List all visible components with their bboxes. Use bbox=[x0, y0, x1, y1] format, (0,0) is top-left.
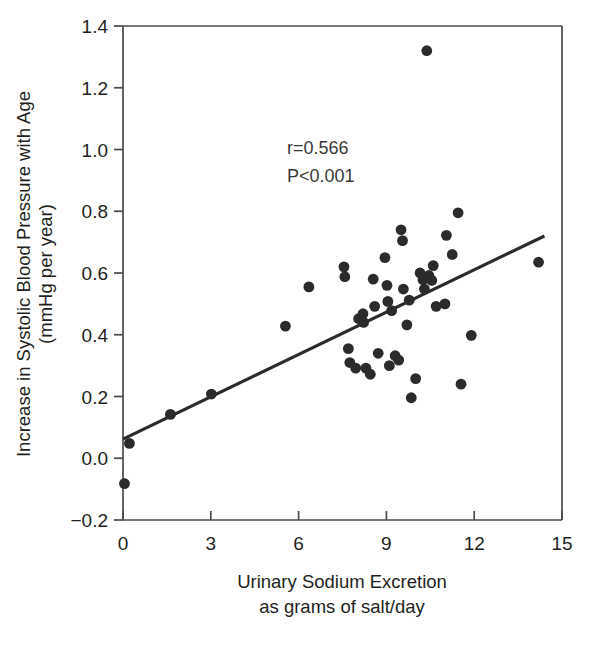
data-point bbox=[280, 321, 291, 332]
data-point bbox=[343, 343, 354, 354]
x-tick-label: 0 bbox=[118, 533, 129, 554]
x-tick-label: 15 bbox=[551, 533, 572, 554]
data-point bbox=[358, 317, 369, 328]
x-axis-title-line2: as grams of salt/day bbox=[259, 596, 425, 617]
data-point bbox=[453, 207, 464, 218]
statistic-annotation: P<0.001 bbox=[287, 166, 355, 186]
data-point bbox=[397, 235, 408, 246]
x-axis-title-line1: Urinary Sodium Excretion bbox=[237, 571, 447, 592]
x-tick-label: 9 bbox=[381, 533, 392, 554]
y-axis-title-line2: (mmHg per year) bbox=[35, 204, 56, 344]
data-point bbox=[339, 261, 350, 272]
data-point bbox=[410, 373, 421, 384]
y-tick-label: 0.4 bbox=[82, 325, 109, 346]
data-point bbox=[419, 284, 430, 295]
data-point bbox=[303, 281, 314, 292]
y-tick-marks bbox=[114, 26, 123, 520]
y-tick-label: 1.0 bbox=[82, 140, 108, 161]
y-tick-label: 0.2 bbox=[82, 387, 108, 408]
statistic-annotation: r=0.566 bbox=[287, 138, 349, 158]
x-tick-label: 6 bbox=[293, 533, 304, 554]
data-point bbox=[456, 379, 467, 390]
y-tick-label: 0.6 bbox=[82, 263, 108, 284]
y-tick-label: 0.0 bbox=[82, 448, 108, 469]
data-point bbox=[401, 319, 412, 330]
data-point bbox=[393, 355, 404, 366]
data-point bbox=[119, 478, 130, 489]
y-tick-label: 0.8 bbox=[82, 201, 108, 222]
data-point bbox=[421, 45, 432, 56]
data-point bbox=[373, 348, 384, 359]
data-point bbox=[398, 284, 409, 295]
y-tick-label: −0.2 bbox=[70, 510, 108, 531]
y-axis-title-line1: Increase in Systolic Blood Pressure with… bbox=[13, 91, 34, 457]
y-tick-label: 1.2 bbox=[82, 78, 108, 99]
annotations-group: r=0.566P<0.001 bbox=[287, 138, 355, 186]
data-point bbox=[369, 301, 380, 312]
data-point bbox=[350, 363, 361, 374]
data-point bbox=[124, 438, 135, 449]
data-point bbox=[165, 409, 176, 420]
data-point bbox=[339, 271, 350, 282]
x-tick-marks bbox=[123, 511, 562, 520]
data-point bbox=[466, 330, 477, 341]
data-point bbox=[533, 257, 544, 268]
data-point bbox=[428, 260, 439, 271]
data-point bbox=[386, 305, 397, 316]
x-tick-label: 3 bbox=[206, 533, 217, 554]
regression-line bbox=[123, 236, 544, 439]
data-point bbox=[206, 389, 217, 400]
x-tick-labels: 0 3 6 9 12 15 bbox=[118, 533, 573, 554]
data-point bbox=[426, 275, 437, 286]
data-point bbox=[447, 249, 458, 260]
data-point bbox=[404, 295, 415, 306]
data-point bbox=[382, 280, 393, 291]
data-point bbox=[384, 360, 395, 371]
y-tick-labels: 1.4 1.2 1.0 0.8 0.6 0.4 0.2 0.0 −0.2 bbox=[70, 16, 108, 531]
data-point bbox=[368, 274, 379, 285]
data-point bbox=[440, 298, 451, 309]
data-point bbox=[406, 392, 417, 403]
data-point bbox=[382, 296, 393, 307]
data-point bbox=[365, 369, 376, 380]
y-tick-label: 1.4 bbox=[82, 16, 109, 37]
data-point bbox=[396, 224, 407, 235]
x-tick-label: 12 bbox=[464, 533, 485, 554]
data-point bbox=[441, 230, 452, 241]
scatter-plot: Increase in Systolic Blood Pressure with… bbox=[0, 0, 596, 645]
figure-container: Increase in Systolic Blood Pressure with… bbox=[0, 0, 596, 645]
data-point bbox=[380, 252, 391, 263]
